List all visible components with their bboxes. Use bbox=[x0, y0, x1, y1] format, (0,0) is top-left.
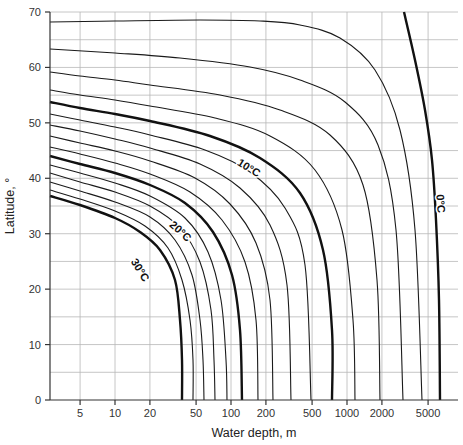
x-tick-label: 1000 bbox=[335, 407, 359, 419]
x-axis-label: Water depth, m bbox=[212, 426, 297, 440]
isotherm-curve-18c bbox=[50, 147, 258, 400]
tick-labels: 0102030405060705102050100200500100020005… bbox=[29, 6, 441, 419]
isotherm-label-10c: 10°C bbox=[236, 156, 263, 179]
isotherm-label-30c: 30°C bbox=[129, 256, 152, 283]
y-tick-label: 50 bbox=[29, 117, 41, 129]
gridlines bbox=[50, 12, 458, 400]
x-tick-label: 5 bbox=[77, 407, 83, 419]
x-tick-label: 500 bbox=[303, 407, 321, 419]
y-tick-label: 10 bbox=[29, 339, 41, 351]
x-tick-label: 100 bbox=[222, 407, 240, 419]
y-axis-label: Latitude, ° bbox=[3, 178, 17, 234]
isotherm-curve-16c bbox=[50, 136, 273, 400]
y-tick-label: 0 bbox=[35, 394, 41, 406]
latitude-depth-isotherm-chart: 0102030405060705102050100200500100020005… bbox=[0, 0, 463, 445]
x-tick-label: 20 bbox=[144, 407, 156, 419]
x-tick-label: 10 bbox=[109, 407, 121, 419]
y-tick-label: 30 bbox=[29, 228, 41, 240]
x-tick-label: 50 bbox=[190, 407, 202, 419]
y-tick-label: 60 bbox=[29, 61, 41, 73]
x-tick-label: 200 bbox=[257, 407, 275, 419]
x-tick-label: 5000 bbox=[416, 407, 440, 419]
x-tick-label: 2000 bbox=[370, 407, 394, 419]
y-tick-label: 40 bbox=[29, 172, 41, 184]
y-tick-label: 20 bbox=[29, 283, 41, 295]
isotherm-label-0c: 0°C bbox=[434, 194, 448, 213]
isotherm-label-20c: 20°C bbox=[168, 218, 194, 243]
y-tick-label: 70 bbox=[29, 6, 41, 18]
isotherm-curve-4c bbox=[50, 49, 403, 400]
